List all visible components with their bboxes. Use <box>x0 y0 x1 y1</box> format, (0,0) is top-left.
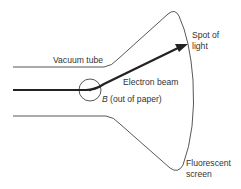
vacuum-tube-diagram: Vacuum tube Spot of light Electron beam … <box>0 0 241 189</box>
label-spot-of-light-1: Spot of <box>192 30 220 40</box>
field-center-dot <box>89 89 92 92</box>
label-electron-beam: Electron beam <box>123 77 178 87</box>
label-vacuum-tube: Vacuum tube <box>53 55 103 65</box>
label-b-desc: (out of paper) <box>108 94 162 104</box>
label-spot-of-light-2: light <box>192 41 208 51</box>
label-b-field: B (out of paper) <box>102 94 162 104</box>
label-fluorescent-2: screen <box>186 169 212 179</box>
label-fluorescent-1: Fluorescent <box>186 158 232 168</box>
